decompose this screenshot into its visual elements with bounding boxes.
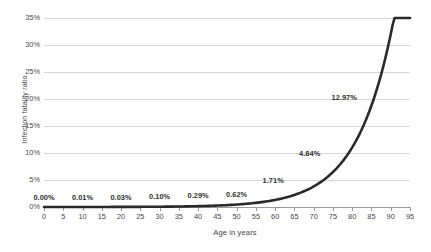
data-point-label: 0.01%: [72, 193, 93, 202]
data-point-label: 0.03%: [110, 193, 131, 202]
data-point-label: 1.71%: [263, 176, 284, 185]
series-line-infection-fatality-ratio: [44, 18, 410, 207]
data-point-label: 0.29%: [187, 191, 208, 200]
data-point-label: 0.00%: [33, 193, 54, 202]
data-point-label: 0.62%: [226, 190, 247, 199]
x-axis-title: Age in years: [180, 228, 290, 237]
chart-container: Infection fatality ratio 0%5%10%15%20%25…: [0, 0, 431, 252]
data-point-label: 4.84%: [299, 149, 320, 158]
data-point-label: 0.10%: [149, 192, 170, 201]
data-curve-layer: [0, 0, 431, 252]
data-point-label: 12.97%: [332, 93, 357, 102]
